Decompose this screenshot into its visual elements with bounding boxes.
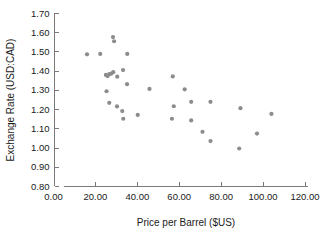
y-tick-label: 1.60 (31, 27, 50, 38)
data-point (269, 112, 273, 116)
data-point (120, 109, 124, 113)
data-point (189, 100, 193, 104)
y-tick-label: 1.20 (31, 104, 50, 115)
x-tick-label: 60.00 (167, 191, 191, 202)
data-point (136, 113, 140, 117)
data-point (111, 35, 115, 39)
y-axis-title: Exchange Rate (USD:CAD) (5, 39, 16, 162)
x-tick-label: 0.00 (44, 191, 63, 202)
scatter-chart: 0.800.901.001.101.201.301.401.501.601.70… (0, 0, 326, 236)
x-tick-label: 100.00 (249, 191, 278, 202)
data-point (121, 68, 125, 72)
data-point (200, 130, 204, 134)
y-tick-label: 0.80 (31, 181, 50, 192)
data-point (208, 139, 212, 143)
data-point (115, 75, 119, 79)
y-tick-label: 0.90 (31, 161, 50, 172)
data-point (147, 87, 151, 91)
data-point (208, 100, 212, 104)
data-point (107, 101, 111, 105)
data-point (125, 82, 129, 86)
x-tick-label: 80.00 (209, 191, 233, 202)
x-axis-title: Price per Barrel ($US) (137, 217, 235, 228)
y-tick-label: 1.30 (31, 84, 50, 95)
data-point (111, 70, 115, 74)
y-tick-label: 1.40 (31, 65, 50, 76)
data-point (98, 52, 102, 56)
y-tick-label: 1.10 (31, 123, 50, 134)
data-point (104, 89, 108, 93)
data-point (189, 118, 193, 122)
data-point (172, 104, 176, 108)
y-tick-label: 1.70 (31, 8, 50, 19)
data-point (238, 106, 242, 110)
data-point (112, 39, 116, 43)
x-tick-label: 40.00 (125, 191, 149, 202)
data-point (115, 104, 119, 108)
data-point (237, 146, 241, 150)
data-point (121, 117, 125, 121)
x-tick-label: 20.00 (84, 191, 108, 202)
data-point (171, 74, 175, 78)
data-point (255, 131, 259, 135)
data-point (170, 117, 174, 121)
data-point (85, 52, 89, 56)
x-tick-label: 120.00 (290, 191, 319, 202)
data-point (125, 52, 129, 56)
y-tick-label: 1.00 (31, 142, 50, 153)
data-point (183, 87, 187, 91)
chart-canvas: 0.800.901.001.101.201.301.401.501.601.70… (0, 0, 326, 236)
y-tick-label: 1.50 (31, 46, 50, 57)
